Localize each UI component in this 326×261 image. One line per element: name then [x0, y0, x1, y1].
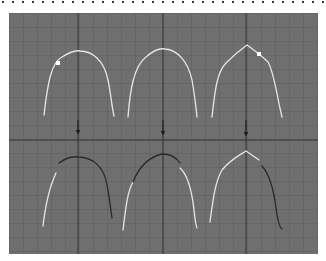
- curve-diagram: [0, 0, 326, 261]
- control-point-1[interactable]: [56, 61, 60, 65]
- control-point-3[interactable]: [257, 52, 261, 56]
